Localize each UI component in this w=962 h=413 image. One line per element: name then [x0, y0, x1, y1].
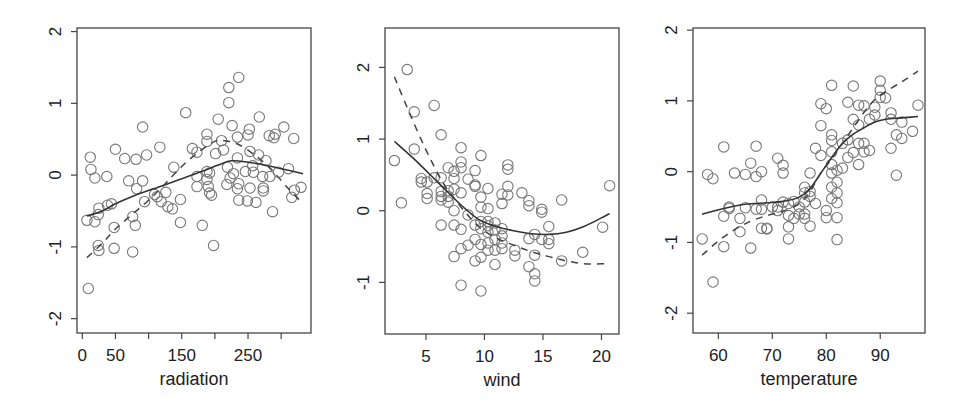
data-point: [832, 234, 842, 244]
data-point: [187, 143, 197, 153]
data-point: [258, 186, 268, 196]
plot-area: [82, 72, 307, 293]
data-point: [810, 143, 820, 153]
x-tick-label: 90: [871, 346, 890, 365]
x-tick-label: 70: [763, 346, 782, 365]
x-tick-label: 250: [234, 346, 262, 365]
data-point: [490, 259, 500, 269]
data-point: [832, 212, 842, 222]
data-point: [544, 221, 554, 231]
data-point: [234, 72, 244, 82]
y-tick-label: 2: [46, 27, 65, 36]
data-point: [805, 221, 815, 231]
y-tick-label: -2: [46, 311, 65, 326]
data-point: [483, 203, 493, 213]
data-point: [697, 234, 707, 244]
solid-smooth-line: [702, 116, 918, 214]
data-point: [746, 243, 756, 253]
data-point: [476, 286, 486, 296]
data-point: [816, 120, 826, 130]
data-point: [258, 183, 268, 193]
panel-radiation: -2-1012050150250radiation: [46, 27, 311, 389]
data-point: [783, 234, 793, 244]
data-point: [429, 100, 439, 110]
data-point: [270, 129, 280, 139]
data-point: [296, 182, 306, 192]
data-point: [222, 179, 232, 189]
data-point: [254, 112, 264, 122]
data-point: [232, 132, 242, 142]
data-point: [719, 142, 729, 152]
data-point: [740, 169, 750, 179]
data-point: [141, 150, 151, 160]
data-point: [85, 152, 95, 162]
data-point: [175, 217, 185, 227]
y-tick-label: 1: [354, 134, 373, 143]
data-point: [202, 174, 212, 184]
data-point: [456, 280, 466, 290]
data-point: [169, 162, 179, 172]
data-point: [826, 80, 836, 90]
y-tick-label: 0: [46, 170, 65, 179]
data-point: [843, 97, 853, 107]
data-point: [436, 130, 446, 140]
plot-area: [697, 71, 923, 287]
data-point: [751, 141, 761, 151]
data-point: [402, 64, 412, 74]
data-point: [224, 97, 234, 107]
data-point: [805, 168, 815, 178]
data-point: [175, 194, 185, 204]
data-point: [83, 283, 93, 293]
panel-wind: -10125101520wind: [354, 28, 619, 390]
data-point: [604, 180, 614, 190]
data-point: [161, 187, 171, 197]
data-point: [213, 114, 223, 124]
data-point: [204, 188, 214, 198]
data-point: [848, 81, 858, 91]
data-point: [476, 202, 486, 212]
x-tick-label: 20: [592, 347, 611, 366]
data-point: [245, 183, 255, 193]
data-point: [719, 241, 729, 251]
data-point: [287, 192, 297, 202]
x-axis-label: temperature: [760, 369, 857, 389]
data-point: [120, 153, 130, 163]
y-tick-label: 0: [354, 206, 373, 215]
data-point: [530, 250, 540, 260]
data-point: [773, 153, 783, 163]
x-tick-label: 10: [475, 347, 494, 366]
data-point: [443, 163, 453, 173]
data-point: [470, 256, 480, 266]
data-point: [556, 195, 566, 205]
data-point: [524, 261, 534, 271]
data-point: [137, 176, 147, 186]
data-point: [821, 212, 831, 222]
data-point: [735, 213, 745, 223]
data-point: [131, 154, 141, 164]
data-point: [389, 155, 399, 165]
data-point: [886, 108, 896, 118]
data-point: [227, 120, 237, 130]
figure: -2-1012050150250radiation-10125101520win…: [0, 0, 962, 413]
y-tick-label: -2: [662, 306, 681, 321]
data-point: [436, 220, 446, 230]
y-tick-label: -1: [354, 275, 373, 290]
data-point: [729, 168, 739, 178]
data-point: [197, 220, 207, 230]
data-point: [891, 170, 901, 180]
data-point: [470, 220, 480, 230]
data-point: [279, 122, 289, 132]
x-axis-label: wind: [482, 370, 520, 390]
x-tick-label: 15: [533, 347, 552, 366]
y-tick-label: 1: [46, 99, 65, 108]
data-point: [476, 192, 486, 202]
data-point: [537, 207, 547, 217]
data-point: [907, 126, 917, 136]
data-point: [816, 150, 826, 160]
data-point: [102, 171, 112, 181]
data-point: [283, 163, 293, 173]
data-point: [202, 136, 212, 146]
data-point: [124, 176, 134, 186]
y-tick-label: 0: [662, 167, 681, 176]
x-tick-label: 50: [106, 346, 125, 365]
